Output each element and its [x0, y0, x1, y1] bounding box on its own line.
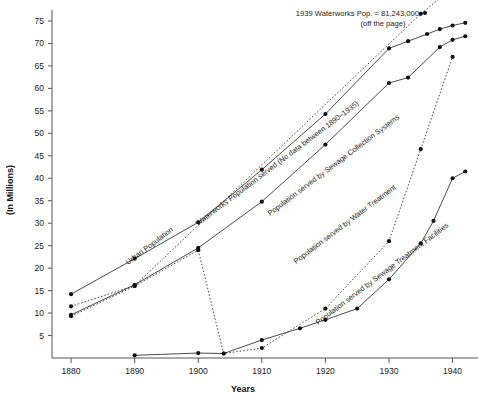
x-tick-label: 1930: [380, 366, 399, 376]
y-tick-labels: 51015202530354045505560657075: [35, 16, 52, 341]
y-axis-title: (In Millions): [5, 165, 15, 215]
x-tick-label: 1910: [252, 366, 271, 376]
y-tick-label: 5: [39, 331, 44, 341]
data-point: [450, 23, 454, 27]
x-axis-title: Years: [231, 384, 255, 394]
data-point: [133, 284, 137, 288]
series-line: [71, 57, 453, 354]
data-point: [196, 248, 200, 252]
annotation-line-2: (off the page): [360, 19, 406, 28]
data-point: [438, 27, 442, 31]
y-tick-label: 20: [35, 263, 45, 273]
data-point: [450, 55, 454, 59]
data-point: [260, 346, 264, 350]
data-point: [463, 169, 467, 173]
data-point: [406, 76, 410, 80]
data-point: [69, 314, 73, 318]
data-point: [438, 45, 442, 49]
y-tick-label: 30: [35, 218, 45, 228]
y-tick-label: 75: [35, 16, 45, 26]
data-point: [323, 142, 327, 146]
series-group: [69, 0, 467, 357]
y-tick-label: 65: [35, 61, 45, 71]
chart-container: 51015202530354045505560657075 1880189019…: [0, 0, 485, 404]
y-tick-label: 60: [35, 83, 45, 93]
y-tick-label: 70: [35, 38, 45, 48]
y-tick-label: 10: [35, 308, 45, 318]
data-point: [406, 39, 410, 43]
data-point: [419, 147, 423, 151]
x-tick-label: 1900: [189, 366, 208, 376]
data-point: [260, 338, 264, 342]
y-tick-label: 55: [35, 106, 45, 116]
y-tick-label: 25: [35, 241, 45, 251]
x-tick-labels: 1880189019001910192019301940: [62, 358, 463, 376]
data-point: [196, 351, 200, 355]
data-point: [387, 277, 391, 281]
y-tick-label: 15: [35, 286, 45, 296]
data-point: [419, 12, 423, 16]
series-label-0: Urban Population: [124, 225, 175, 267]
data-point: [222, 351, 226, 355]
annotation-line-1: 1939 Waterworks Pop. = 81,243,000: [296, 9, 419, 18]
data-point: [355, 306, 359, 310]
axes-group: [52, 10, 478, 358]
annotation-marker-dot: [423, 11, 427, 15]
data-point: [260, 200, 264, 204]
y-tick-label: 45: [35, 151, 45, 161]
line-chart: 51015202530354045505560657075 1880189019…: [0, 0, 485, 404]
data-point: [463, 21, 467, 25]
data-point: [387, 239, 391, 243]
data-point: [69, 292, 73, 296]
x-tick-label: 1890: [125, 366, 144, 376]
series-labels-group: Waterworks Population served (No data be…: [124, 99, 451, 327]
data-point: [133, 353, 137, 357]
data-point: [425, 32, 429, 36]
data-point: [463, 34, 467, 38]
x-tick-label: 1940: [443, 366, 462, 376]
data-point: [298, 326, 302, 330]
axis-lines: [52, 10, 478, 358]
y-tick-label: 50: [35, 128, 45, 138]
data-point: [431, 219, 435, 223]
data-point: [387, 46, 391, 50]
data-point: [387, 81, 391, 85]
data-point: [450, 176, 454, 180]
y-tick-label: 35: [35, 196, 45, 206]
series-label-3: Population served by Water Treatment: [292, 183, 398, 266]
y-tick-label: 40: [35, 173, 45, 183]
x-tick-label: 1920: [316, 366, 335, 376]
x-tick-label: 1880: [62, 366, 81, 376]
data-point: [69, 304, 73, 308]
data-point: [323, 112, 327, 116]
data-point: [450, 38, 454, 42]
series-3: [69, 55, 455, 356]
